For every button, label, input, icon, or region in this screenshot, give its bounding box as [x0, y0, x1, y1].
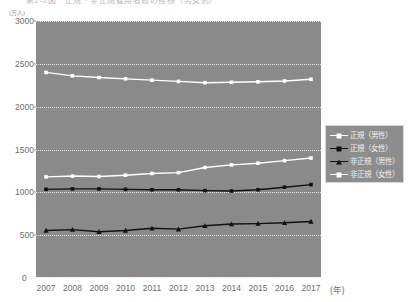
- series-marker: [256, 188, 260, 192]
- y-axis-tick-label: 3000: [2, 16, 34, 26]
- series-marker: [256, 80, 260, 84]
- series-marker: [177, 80, 181, 84]
- series-marker: [71, 174, 75, 178]
- series-marker: [203, 81, 207, 85]
- series-marker: [150, 188, 154, 192]
- series-marker: [203, 189, 207, 193]
- series-marker: [97, 76, 101, 80]
- series-marker: [283, 185, 287, 189]
- x-axis-tick-label: 2016: [275, 283, 294, 293]
- series-marker: [309, 77, 313, 81]
- series-marker: [230, 163, 234, 167]
- series-marker: [203, 166, 207, 170]
- legend-marker-icon: [329, 156, 349, 167]
- series-marker: [97, 187, 101, 191]
- series-marker: [309, 156, 313, 160]
- series-marker: [97, 175, 101, 179]
- series-marker: [44, 188, 48, 192]
- y-axis-ticks: 30002500200015001000500: [0, 21, 34, 278]
- y-axis-tick-label: 500: [2, 230, 34, 240]
- series-marker: [283, 79, 287, 83]
- series-marker: [230, 80, 234, 84]
- x-axis-tick-label: 2017: [302, 283, 321, 293]
- chart-legend: 正規（男性）正規（女性）非正規（男性）非正規（女性）: [325, 125, 404, 183]
- series-marker: [124, 188, 128, 192]
- chart-title: 第2-1図 正規・非正規雇用者数の推移（男女別）: [26, 0, 218, 5]
- x-axis-tick-label: 2014: [222, 283, 241, 293]
- series-marker: [44, 175, 48, 179]
- y-axis-zero-label: 0: [22, 273, 27, 283]
- legend-item[interactable]: 非正規（男性）: [329, 155, 401, 168]
- y-axis-tick-label: 1500: [2, 145, 34, 155]
- x-axis-tick-label: 2015: [249, 283, 268, 293]
- legend-item-label: 非正規（男性）: [349, 158, 399, 166]
- series-marker: [309, 183, 313, 187]
- x-axis-tick-label: 2007: [37, 283, 56, 293]
- legend-item-label: 正規（女性）: [349, 145, 392, 153]
- x-axis-tick-label: 2013: [196, 283, 215, 293]
- y-axis-tick-label: 1000: [2, 187, 34, 197]
- series-marker: [124, 173, 128, 177]
- legend-marker-icon: [329, 143, 349, 154]
- series-marker: [150, 172, 154, 176]
- legend-item[interactable]: 正規（男性）: [329, 129, 401, 142]
- chart-root: 第2-1図 正規・非正規雇用者数の推移（男女別） (万人) 3000250020…: [0, 0, 414, 302]
- series-marker: [44, 71, 48, 75]
- y-axis-tick-label: 2000: [2, 102, 34, 112]
- series-marker: [71, 187, 75, 191]
- series-marker: [283, 159, 287, 163]
- series-marker: [150, 78, 154, 82]
- legend-marker-icon: [329, 169, 349, 180]
- series-marker: [124, 77, 128, 81]
- legend-marker-icon: [329, 130, 349, 141]
- legend-item[interactable]: 正規（女性）: [329, 142, 401, 155]
- legend-item[interactable]: 非正規（女性）: [329, 168, 401, 181]
- series-marker: [256, 161, 260, 165]
- data-series-overlay: [36, 21, 321, 278]
- series-marker: [230, 189, 234, 193]
- x-axis-unit-label: (年): [330, 283, 345, 295]
- x-axis-tick-label: 2011: [143, 283, 161, 293]
- series-marker: [177, 188, 181, 192]
- x-axis-tick-label: 2010: [116, 283, 135, 293]
- x-axis-tick-label: 2008: [63, 283, 82, 293]
- series-marker: [71, 74, 75, 78]
- series-marker: [177, 171, 181, 175]
- y-axis-tick-label: 2500: [2, 59, 34, 69]
- x-axis-tick-label: 2009: [90, 283, 109, 293]
- legend-item-label: 正規（男性）: [349, 132, 392, 140]
- legend-item-label: 非正規（女性）: [349, 171, 399, 179]
- x-axis-tick-label: 2012: [169, 283, 188, 293]
